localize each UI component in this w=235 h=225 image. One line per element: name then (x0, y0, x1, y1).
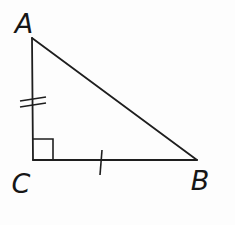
vertex-label-c: C (12, 168, 31, 199)
vertex-label-b: B (191, 165, 210, 196)
triangle-diagram: A C B (0, 0, 235, 225)
vertex-label-a: A (13, 8, 33, 39)
single-tick-mark-cb (100, 150, 102, 175)
diagram-canvas: A C B (0, 0, 235, 225)
right-angle-marker (33, 139, 53, 160)
hypotenuse-ab-line (32, 38, 197, 160)
